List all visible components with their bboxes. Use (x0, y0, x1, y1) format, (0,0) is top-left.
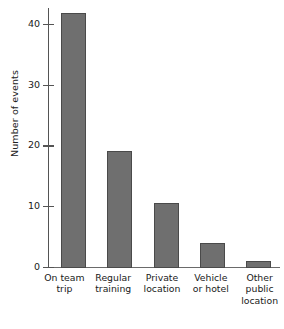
bar (61, 13, 86, 268)
x-category-label-line: location (138, 283, 187, 294)
x-category-label-line: trip (40, 283, 89, 294)
x-category-label: Otherpubliclocation (235, 272, 284, 306)
x-category-label-line: Private (138, 272, 187, 283)
bar (200, 243, 225, 268)
x-category-label-line: location (235, 295, 284, 306)
y-tick-label: 40 (28, 18, 40, 29)
x-category-label-line: Vehicle (186, 272, 235, 283)
x-axis-category-labels: On teamtripRegulartrainingPrivatelocatio… (40, 272, 284, 328)
bar (246, 261, 271, 268)
x-category-label-line: On team (40, 272, 89, 283)
bar (154, 203, 179, 268)
y-tick-label: 10 (28, 200, 40, 211)
x-category-label: Regulartraining (89, 272, 138, 295)
bar-chart-figure: Number of events 010203040 On teamtripRe… (0, 0, 284, 329)
x-category-label-line: public (235, 283, 284, 294)
x-category-label-line: Regular (89, 272, 138, 283)
x-category-label-line: Other (235, 272, 284, 283)
x-category-label: Vehicleor hotel (186, 272, 235, 295)
x-category-label: Privatelocation (138, 272, 187, 295)
x-category-label-line: training (89, 283, 138, 294)
y-axis-title: Number of events (9, 54, 20, 174)
y-tick-label: 30 (28, 79, 40, 90)
plot-area: 010203040 (48, 8, 280, 268)
y-tick-label: 0 (34, 261, 40, 272)
y-tick-label: 20 (28, 139, 40, 150)
x-category-label: On teamtrip (40, 272, 89, 295)
bar (107, 151, 132, 268)
x-category-label-line: or hotel (186, 283, 235, 294)
bar-series (48, 8, 280, 268)
